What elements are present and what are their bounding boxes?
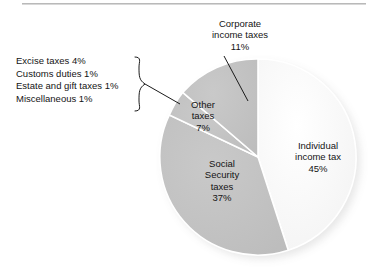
slice-label-corporate-value: 11% [186,41,294,52]
slice-label-social-line3: taxes [186,181,258,192]
breakdown-item-miscellaneous: Miscellaneous 1% [16,93,118,106]
pie-chart-figure: Corporate income taxes 11% Individual in… [0,0,378,267]
slice-label-other-value: 7% [174,122,232,133]
slice-label-individual-line2: income tax [272,151,364,162]
breakdown-item-excise-taxes: Excise taxes 4% [16,55,118,68]
breakdown-item-customs-duties: Customs duties 1% [16,68,118,81]
slice-label-social-value: 37% [186,192,258,203]
slice-label-social-line2: Security [186,169,258,180]
slice-label-other-taxes: Other taxes 7% [174,99,232,133]
breakdown-curly-brace [135,57,145,111]
slice-label-social-line1: Social [186,158,258,169]
slice-label-other-line2: taxes [174,110,232,121]
slice-label-individual-line1: Individual [272,140,364,151]
slice-label-other-line1: Other [174,99,232,110]
slice-label-corporate-income-taxes: Corporate income taxes 11% [186,18,294,52]
slice-label-individual-income-tax: Individual income tax 45% [272,140,364,174]
other-taxes-breakdown-list: Excise taxes 4% Customs duties 1% Estate… [16,55,118,105]
breakdown-item-estate-and-gift-taxes: Estate and gift taxes 1% [16,80,118,93]
slice-label-corporate-line1: Corporate [186,18,294,29]
slice-label-corporate-line2: income taxes [186,29,294,40]
slice-label-individual-value: 45% [272,163,364,174]
slice-label-social-security-taxes: Social Security taxes 37% [186,158,258,204]
